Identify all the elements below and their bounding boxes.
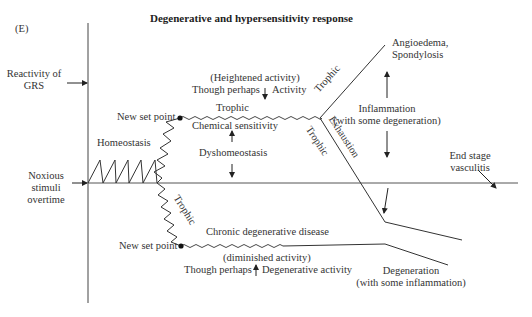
- rise-to-upper-set-point: [154, 118, 180, 183]
- x-axis-label: Noxious stimuli overtime: [15, 170, 77, 206]
- diagram-canvas: (E) Degenerative and hypersensitivity re…: [0, 0, 532, 317]
- diagram-title: Degenerative and hypersensitivity respon…: [150, 12, 353, 24]
- degeneration-label: Degeneration (with some inflammation): [355, 265, 467, 289]
- panel-label: (E): [15, 23, 28, 35]
- lower-wavy-line: [181, 245, 283, 248]
- activity-label: Activity: [272, 84, 306, 96]
- angioedema-line-2: Spondylosis: [392, 49, 448, 61]
- y-axis-label-line-1: Reactivity of: [3, 68, 65, 80]
- exhaustion-point-arrow: [384, 188, 388, 213]
- degeneration-line-1: Degeneration: [355, 265, 467, 277]
- dyshomeostasis-label: Dyshomeostasis: [199, 147, 267, 159]
- though-perhaps-upper-label: Though perhaps: [192, 84, 260, 96]
- homeostasis-zigzag: [88, 160, 157, 183]
- y-axis-label: Reactivity of GRS: [3, 68, 65, 92]
- end-stage-line-2: vasculitis: [435, 162, 505, 174]
- degeneration-line-2: (with some inflammation): [355, 277, 467, 289]
- lower-set-point-dot: [178, 243, 183, 248]
- upper-set-point-dot: [177, 115, 182, 120]
- inflammation-line-2: (with some degeneration): [330, 115, 444, 127]
- inflammation-line-1: Inflammation: [330, 103, 444, 115]
- end-stage-label: End stage vasculitis: [435, 150, 505, 174]
- heightened-activity-label: (Heightened activity): [195, 72, 315, 84]
- lower-set-point-label: New set point: [119, 240, 177, 252]
- degenerative-activity-label: Degenerative activity: [262, 264, 352, 276]
- chronic-degenerative-label: Chronic degenerative disease: [206, 226, 329, 238]
- y-axis-label-line-2: GRS: [3, 80, 65, 92]
- x-axis-label-line-2: stimuli: [15, 182, 77, 194]
- upper-set-point-label: New set point: [117, 111, 175, 123]
- trophic-upper-label: Trophic: [216, 102, 249, 114]
- chemical-sensitivity-label: Chemical sensitivity: [192, 120, 278, 132]
- x-axis-label-line-1: Noxious: [15, 170, 77, 182]
- angioedema-line-1: Angioedema,: [392, 37, 448, 49]
- descent-to-lower-set-point: [157, 183, 181, 246]
- x-axis-label-line-3: overtime: [15, 194, 77, 206]
- end-stage-line-1: End stage: [435, 150, 505, 162]
- inflammation-label: Inflammation (with some degeneration): [330, 103, 444, 127]
- homeostasis-label: Homeostasis: [97, 137, 151, 149]
- diminished-activity-label: (diminished activity): [223, 252, 311, 264]
- though-perhaps-lower-label: Though perhaps: [184, 264, 252, 276]
- angioedema-label: Angioedema, Spondylosis: [392, 37, 448, 61]
